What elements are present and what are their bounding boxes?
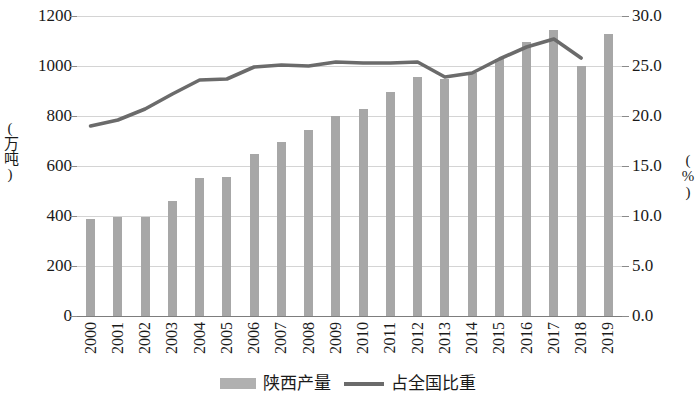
x-axis-tick-label: 2012 [410,322,426,354]
x-axis-tick-label: 2009 [328,322,344,354]
y-axis-right-tickmark [622,266,629,267]
legend-label: 陕西产量 [263,375,331,392]
y-axis-left-tick-label: 600 [47,157,73,174]
y-axis-right-tick-label: 10.0 [632,207,662,224]
y-axis-right-tickmark [622,66,629,67]
y-axis-right-title: (%) [680,152,695,200]
y-axis-left-tickmark [70,316,77,317]
x-axis-tick-label: 2007 [273,322,289,354]
chart-legend: 陕西产量占全国比重 [0,375,696,392]
x-axis-tick-label: 2014 [464,322,480,354]
y-axis-left-tick-label: 1000 [38,57,72,74]
y-axis-right-tick-label: 25.0 [632,57,662,74]
plot-area [77,16,622,317]
x-axis-tick-label: 2003 [164,322,180,354]
x-axis-tick-label: 2018 [573,322,589,354]
x-axis-tick-label: 2002 [137,322,153,354]
x-axis-tick-label: 2016 [519,322,535,354]
y-axis-right-tickmark [622,166,629,167]
x-axis-tick-label: 2008 [301,322,317,354]
y-axis-right-tickmark [622,316,629,317]
y-axis-right-tick-label: 0.0 [632,307,653,324]
x-axis-tick-label: 2000 [83,322,99,354]
x-axis-tick-label: 2010 [355,322,371,354]
legend-bar-swatch-icon [220,378,256,389]
y-axis-left-tickmark [70,266,77,267]
x-axis-tick-label: 2015 [491,322,507,354]
y-axis-left-tickmark [70,166,77,167]
y-axis-right-tick-label: 15.0 [632,157,662,174]
y-axis-left-tick-label: 1200 [38,7,72,24]
y-axis-right-tickmark [622,216,629,217]
y-axis-left-tickmark [70,16,77,17]
x-axis-tick-label: 2004 [192,322,208,354]
y-axis-left-tickmark [70,116,77,117]
legend-line-swatch-icon [344,382,384,386]
y-axis-left-tick-label: 200 [47,257,73,274]
y-axis-right-tickmark [622,116,629,117]
y-axis-left-tickmark [70,66,77,67]
x-axis-tick-label: 2006 [246,322,262,354]
x-axis-tick-label: 2019 [600,322,616,354]
y-axis-left-tick-label: 800 [47,107,73,124]
y-axis-left-tick-label: 400 [47,207,73,224]
chart-container: (万吨) (%) 020040060080010001200 0.05.010.… [0,0,696,405]
x-axis-tick-label: 2017 [546,322,562,354]
x-axis-tick-label: 2013 [437,322,453,354]
y-axis-right-tick-label: 20.0 [632,107,662,124]
legend-item[interactable]: 陕西产量 [220,375,331,392]
line-series-national-share [77,16,622,316]
y-axis-left-title: (万吨) [2,120,17,182]
x-axis-tick-label: 2001 [110,322,126,354]
legend-label: 占全国比重 [391,375,476,392]
y-axis-right-tick-label: 30.0 [632,7,662,24]
x-axis-tick-label: 2011 [382,322,398,353]
y-axis-right-tick-label: 5.0 [632,257,653,274]
x-axis-tick-label: 2005 [219,322,235,354]
y-axis-right-tickmark [622,16,629,17]
legend-item[interactable]: 占全国比重 [344,375,476,392]
y-axis-left-tickmark [70,216,77,217]
